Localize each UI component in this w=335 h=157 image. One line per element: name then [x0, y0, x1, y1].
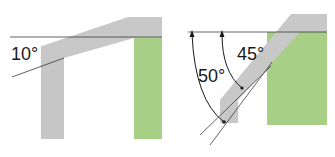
- left-panel: 10°: [10, 17, 162, 139]
- right-arc-50-endpoint: [222, 120, 226, 124]
- left-angle-label: 10°: [11, 44, 38, 64]
- roof-angle-diagram: 10° 45° 50°: [0, 0, 335, 157]
- right-panel: 45° 50°: [188, 14, 327, 145]
- right-arc-45-endpoint: [240, 86, 243, 89]
- right-angle-label-45: 45°: [237, 44, 264, 64]
- right-arc-45-arrowhead: [220, 30, 225, 37]
- left-green-post: [134, 38, 162, 139]
- right-angle-label-50: 50°: [198, 66, 225, 86]
- right-arc-50-arrowhead: [190, 30, 195, 37]
